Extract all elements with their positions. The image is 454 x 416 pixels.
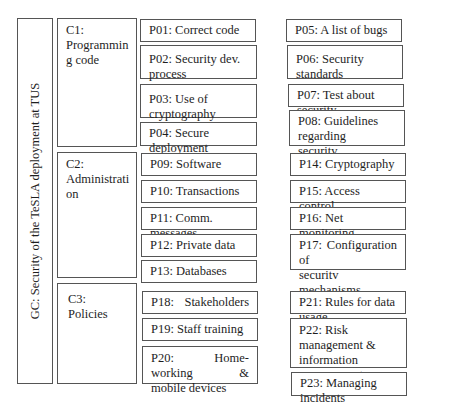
practice-box-p10: P10: Transactions	[141, 180, 257, 203]
practice-p02-label: P02: Security dev. process	[149, 52, 240, 81]
practice-box-p12: P12: Private data	[141, 234, 257, 257]
category-c2-line3: on	[66, 187, 128, 202]
practice-box-p01: P01: Correct code	[140, 19, 256, 42]
practice-p10-label: P10: Transactions	[150, 184, 239, 198]
practice-p06-label: P06: Security standards	[296, 52, 364, 81]
category-c1-line1: C1:	[66, 23, 128, 38]
category-box-c1: C1: Programmin g code	[57, 18, 137, 147]
practice-box-p07: P07: Test about security	[288, 84, 404, 107]
practice-p22-line1: P22: Risk management &	[299, 323, 398, 353]
practice-p13-label: P13: Databases	[150, 264, 227, 278]
practice-box-p05: P05: A list of bugs	[286, 19, 402, 42]
practice-p14-label: P14: Cryptography	[299, 157, 394, 171]
practice-p19-label: P19: Staff training	[151, 322, 243, 336]
practice-p18-label: P18: Stakeholders	[151, 295, 249, 309]
practice-box-p09: P09: Software	[141, 153, 257, 176]
practice-box-p20: P20: Home-working & mobile devices	[142, 346, 258, 384]
practice-p09-label: P09: Software	[150, 157, 221, 171]
practice-box-p18: P18: Stakeholders	[142, 291, 258, 314]
practice-box-p13: P13: Databases	[141, 260, 257, 283]
category-c2-line2: Administrati	[66, 172, 128, 187]
practice-box-p19: P19: Staff training	[142, 318, 258, 341]
practice-p08-line1: P08: Guidelines regarding	[298, 114, 396, 144]
category-c1-line2: Programmin	[66, 38, 128, 53]
practice-box-p08: P08: Guidelines regarding securitv	[289, 110, 405, 146]
practice-box-p23: P23: Managing incidents	[291, 372, 407, 396]
practice-p12-label: P12: Private data	[150, 238, 235, 252]
practice-p04-label: P04: Secure deployment	[149, 126, 209, 155]
practice-p20-line2: mobile devices	[151, 381, 249, 396]
practice-p01-label: P01: Correct code	[149, 23, 239, 37]
practice-box-p14: P14: Cryptography	[290, 153, 406, 176]
category-box-c2: C2: Administrati on	[57, 152, 137, 278]
practice-box-p03: P03: Use of cryptography	[140, 84, 257, 118]
practice-box-p04: P04: Secure deployment	[140, 122, 257, 146]
practice-box-p06: P06: Security standards	[287, 45, 403, 79]
category-box-c3: C3: Policies	[57, 283, 137, 384]
practice-box-p22: P22: Risk management & information manag…	[290, 318, 407, 368]
practice-p17-line1: P17: Configuration of	[299, 238, 397, 267]
practice-box-p11: P11: Comm. messages	[141, 207, 257, 230]
practice-p20-line1: P20: Home-working &	[151, 351, 249, 380]
practice-box-p02: P02: Security dev. process	[140, 45, 257, 79]
practice-box-p21: P21: Rules for data usage	[290, 291, 406, 314]
practice-p03-label: P03: Use of cryptography	[149, 92, 216, 121]
practice-box-p15: P15: Access control	[290, 180, 406, 203]
category-c3-line1: C3: Policies	[68, 292, 128, 322]
goal-box-gc: GC: Security of the TeSLA deployment at …	[17, 18, 53, 384]
practice-p23-label: P23: Managing incidents	[300, 376, 377, 405]
category-c1-line3: g code	[66, 53, 128, 68]
practice-box-p16: P16: Net monitoring	[290, 207, 406, 230]
goal-label: GC: Security of the TeSLA deployment at …	[28, 83, 43, 320]
practice-p05-label: P05: A list of bugs	[295, 23, 387, 37]
category-c2-line1: C2:	[66, 157, 128, 172]
practice-box-p17: P17: Configuration of securitv mechanism…	[290, 234, 406, 270]
